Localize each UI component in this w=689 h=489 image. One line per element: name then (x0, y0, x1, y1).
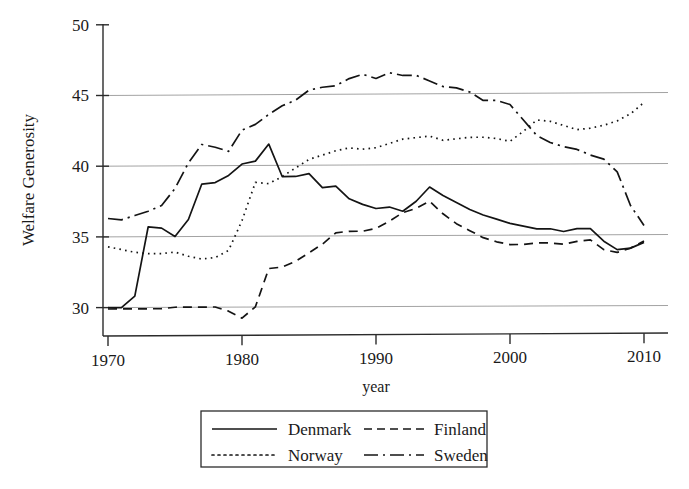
y-tick-label-50: 50 (72, 16, 89, 35)
legend-label-sweden: Sweden (434, 446, 488, 465)
y-tick-label-35: 35 (72, 228, 89, 247)
legend-label-denmark: Denmark (288, 420, 352, 439)
legend-label-finland: Finland (434, 420, 486, 439)
x-tick-label-1970: 1970 (91, 351, 125, 370)
x-tick-label-2010: 2010 (627, 347, 661, 366)
legend-label-norway: Norway (288, 446, 343, 465)
x-tick-label-1980: 1980 (225, 350, 259, 369)
x-axis-title: year (362, 378, 390, 396)
y-tick-label-30: 30 (72, 299, 89, 318)
x-tick-label-2000: 2000 (493, 348, 527, 367)
y-tick-label-45: 45 (72, 86, 89, 105)
chart-svg: 50 45 40 35 30 1970 1980 1990 2000 2010 … (0, 0, 689, 489)
y-axis-title: Welfare Generosity (19, 113, 38, 246)
welfare-generosity-line-chart: 50 45 40 35 30 1970 1980 1990 2000 2010 … (0, 0, 689, 489)
y-tick-label-40: 40 (72, 157, 89, 176)
x-tick-label-1990: 1990 (359, 349, 393, 368)
